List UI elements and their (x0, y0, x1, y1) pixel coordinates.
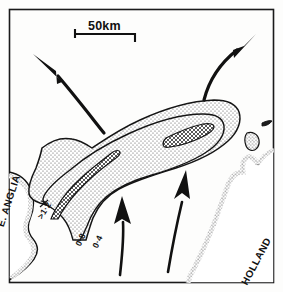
map-canvas (0, 0, 283, 292)
map-figure: 50km E. ANGLIA HOLLAND >1·2 0·8 0·4 (0, 0, 283, 292)
